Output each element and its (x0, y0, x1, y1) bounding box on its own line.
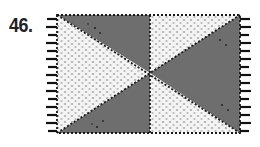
fringe-left (46, 19, 57, 131)
rug-icon (0, 0, 260, 147)
fringe-right (240, 19, 251, 131)
